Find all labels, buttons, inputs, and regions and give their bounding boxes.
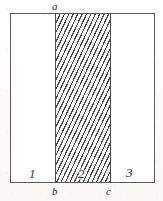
- divider-line-c: [110, 13, 111, 183]
- region-label-1: 1: [29, 167, 36, 180]
- figure-canvas: a b c 1 2 3: [0, 0, 163, 201]
- point-label-c: c: [106, 186, 111, 197]
- region-label-2: 2: [78, 167, 85, 180]
- region-label-3: 3: [126, 166, 133, 179]
- point-label-b: b: [52, 186, 58, 197]
- hatched-region-2: [55, 14, 110, 182]
- divider-line-b: [55, 13, 56, 183]
- point-label-a: a: [52, 1, 58, 12]
